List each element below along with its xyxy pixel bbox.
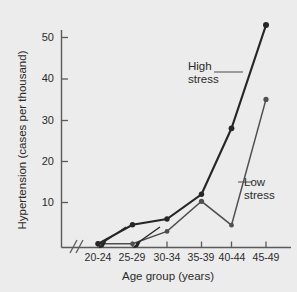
series-annotation-high-stress: High stress: [188, 60, 232, 86]
y-tick-label-50: 50: [28, 32, 54, 43]
x-tick-label-45-49: 45-49: [244, 252, 288, 263]
series-annotation-low-stress: Low stress: [244, 176, 288, 202]
y-axis-title: Hypertension (cases per thousand): [16, 30, 28, 250]
chart-figure: 10 20 30 40 50 20-24 25-29 30-34 35-39 4…: [0, 0, 297, 292]
plot-area: 10 20 30 40 50 20-24 25-29 30-34 35-39 4…: [0, 0, 297, 292]
y-tick-label-20: 20: [28, 156, 54, 167]
arrowhead-25-29: [134, 242, 141, 248]
annotation-leaders-layer: [0, 0, 297, 292]
y-tick-label-30: 30: [28, 115, 54, 126]
y-tick-label-40: 40: [28, 73, 54, 84]
x-axis-title: Age group (years): [88, 270, 248, 282]
y-tick-label-10: 10: [28, 197, 54, 208]
